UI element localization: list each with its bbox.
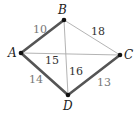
vertex-label: B: [57, 3, 67, 17]
weighted-graph-diagram: 101815161413ABCD: [0, 0, 140, 114]
vertex-label: C: [124, 48, 133, 62]
edge-weight-label: 16: [69, 65, 83, 78]
vertex-label: D: [62, 99, 73, 113]
vertex-label: A: [7, 46, 17, 60]
vertex-A-dot: [19, 51, 24, 56]
vertex-B-dot: [62, 18, 67, 23]
vertex-C-dot: [118, 53, 123, 58]
edge-weight-label: 18: [91, 25, 105, 38]
edge-AC: [21, 53, 120, 55]
edge-weight-label: 15: [45, 54, 59, 67]
vertex-D-dot: [66, 93, 71, 98]
edge-BD: [64, 20, 68, 95]
edge-weight-label: 13: [97, 76, 111, 89]
edge-weight-label: 14: [29, 73, 43, 86]
edge-weight-label: 10: [33, 23, 47, 36]
